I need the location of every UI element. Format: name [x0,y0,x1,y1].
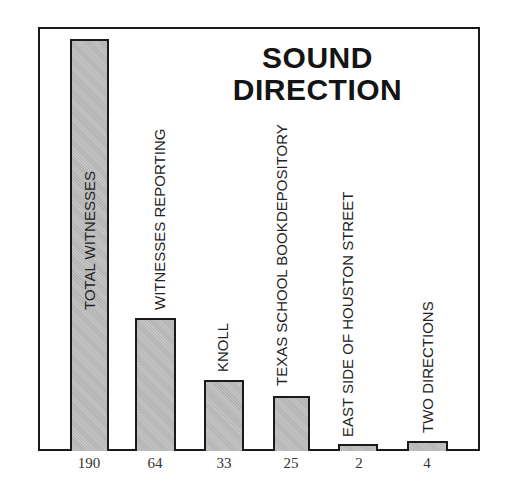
chart-title-line2: DIRECTION [220,74,415,106]
label-east-side-houston-street: EAST SIDE OF HOUSTON STREET [341,272,355,437]
value-east-side-houston-street: 2 [334,455,384,472]
value-texas-school-book-depository: 25 [266,455,316,472]
label-line: EAST SIDE OF [339,334,356,437]
value-witnesses-reporting: 64 [130,455,180,472]
label-two-directions: TWO DIRECTIONS [420,278,435,433]
label-texas-school-book-depository: TEXAS SCHOOL BOOK DEPOSITORY [275,192,289,386]
bar-east-side-houston-street [338,444,378,451]
value-two-directions: 4 [402,455,452,472]
label-line: HOUSTON STREET [339,192,356,330]
bar-witnesses-reporting [135,318,176,451]
label-line: TEXAS SCHOOL BOOK [275,222,289,386]
bar-knoll [204,380,244,451]
value-knoll: 33 [199,455,249,472]
bar-texas-school-book-depository [273,396,310,451]
chart-title: SOUND DIRECTION [220,42,415,106]
label-line: DEPOSITORY [275,125,289,223]
label-knoll: KNOLL [215,312,230,372]
chart-title-line1: SOUND [220,42,415,74]
label-witnesses-reporting: WITNESSES REPORTING [152,95,167,310]
value-total-witnesses: 190 [64,455,114,472]
bar-two-directions [407,441,448,451]
label-total-witnesses: TOTAL WITNESSES [82,157,97,310]
